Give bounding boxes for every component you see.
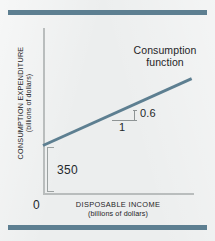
intercept-value-label: 350	[57, 163, 78, 177]
slope-rise-cap-bottom	[133, 120, 137, 121]
y-axis-title-main: CONSUMPTION EXPENDITURE	[16, 33, 25, 173]
slope-rise-label: 0.6	[140, 107, 156, 119]
x-axis-title-main: DISPOSABLE INCOME	[48, 200, 188, 209]
origin-label: 0	[33, 198, 40, 212]
x-axis-line	[43, 193, 194, 195]
y-axis-title: CONSUMPTION EXPENDITURE (billions of dol…	[16, 33, 32, 173]
consumption-function-line	[42, 77, 192, 147]
slope-run-label: 1	[119, 121, 125, 133]
consumption-function-label: Consumption function	[126, 44, 204, 68]
consumption-function-label-line1: Consumption	[126, 44, 204, 56]
chart-plot-area: 0.6 1 350 0 Consumption function CONSUMP…	[0, 0, 215, 241]
x-axis-title: DISPOSABLE INCOME (billions of dollars)	[48, 200, 188, 218]
x-axis-title-units: (billions of dollars)	[48, 209, 188, 218]
intercept-bracket	[47, 147, 54, 192]
figure-container: 0.6 1 350 0 Consumption function CONSUMP…	[0, 0, 215, 241]
slope-rise-cap-top	[133, 110, 137, 111]
y-axis-title-units: (billions of dollars)	[25, 33, 32, 173]
consumption-function-label-line2: function	[126, 56, 204, 68]
y-axis-line	[43, 28, 45, 195]
